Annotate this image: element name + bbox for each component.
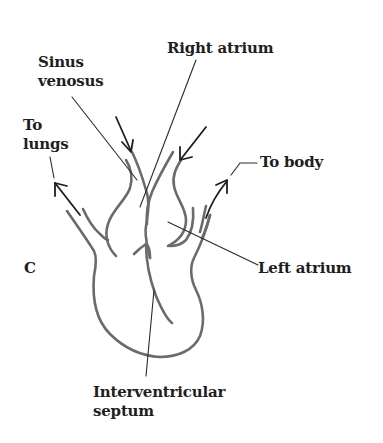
label-to-lungs-line2: lungs bbox=[23, 134, 68, 154]
label-to-lungs-line1: To bbox=[23, 115, 42, 135]
label-sinus-venosus-line2: venosus bbox=[38, 71, 104, 91]
heart-diagram: Right atrium Sinus venosus To lungs To b… bbox=[0, 0, 383, 443]
inflow-arrow-right bbox=[116, 117, 131, 151]
inflow-arrow-left bbox=[181, 127, 206, 159]
label-left-atrium: Left atrium bbox=[258, 258, 352, 278]
panel-letter: C bbox=[24, 258, 36, 278]
leader-interventricular-septum bbox=[146, 290, 154, 376]
label-sinus-venosus-line1: Sinus bbox=[38, 52, 84, 72]
to-body-arrow bbox=[206, 181, 227, 218]
label-interventricular-line2: septum bbox=[93, 401, 154, 421]
leader-sinus-venosus bbox=[72, 97, 137, 180]
leader-to-lungs bbox=[50, 157, 54, 178]
leader-to-body bbox=[231, 163, 257, 175]
leader-right-atrium bbox=[140, 60, 196, 207]
heart-outline bbox=[67, 152, 210, 357]
leader-lines bbox=[50, 60, 258, 376]
label-interventricular-line1: Interventricular bbox=[93, 382, 225, 402]
label-to-body: To body bbox=[260, 152, 323, 172]
label-right-atrium: Right atrium bbox=[167, 38, 273, 58]
